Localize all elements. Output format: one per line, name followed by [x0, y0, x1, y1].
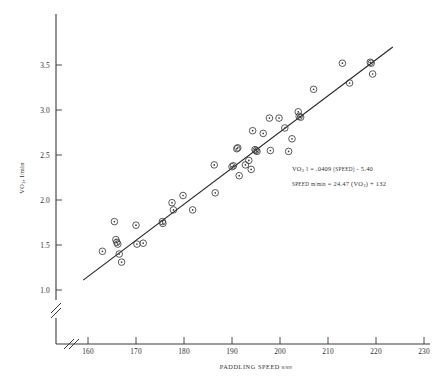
x-axis-title-unit: m/min [281, 365, 292, 370]
data-point [276, 115, 283, 122]
data-point [116, 251, 123, 258]
data-point-center [114, 221, 116, 223]
data-point-center [192, 209, 194, 211]
data-point [111, 218, 118, 225]
x-axis-title-text: PADDLING SPEED [220, 363, 280, 370]
data-point-center [117, 243, 119, 245]
data-point-center [370, 62, 372, 64]
data-point [285, 148, 292, 155]
data-point-center [342, 62, 344, 64]
data-point-center [142, 242, 144, 244]
y-axis-title-text: VO [18, 183, 25, 193]
data-point [282, 125, 289, 132]
data-point [180, 192, 187, 199]
data-point [140, 240, 147, 247]
data-point-center [250, 169, 252, 171]
data-point-center [269, 117, 271, 119]
data-point-center [270, 150, 272, 152]
figure-container: 160170180190200210220230 1.01.52.02.53.0… [0, 0, 437, 386]
x-axis-tick-label: 230 [418, 347, 430, 356]
data-point [248, 166, 255, 173]
data-point [133, 222, 140, 229]
data-point [249, 127, 256, 134]
data-point-center [162, 221, 164, 223]
data-point-center [300, 116, 302, 118]
y-axis-tick-label: 3.0 [28, 106, 50, 115]
data-point-markers [99, 59, 376, 265]
data-point-center [182, 195, 184, 197]
y-axis-tick-label: 3.5 [28, 61, 50, 70]
regression-equations: VO2 l = .0409 (SPEED) - 5.40 SPEED m/min… [292, 166, 432, 196]
data-point-center [256, 151, 258, 153]
equation-fragment: VO [292, 165, 302, 172]
data-point-center [278, 117, 280, 119]
data-point [134, 241, 141, 248]
data-point-center [252, 130, 254, 132]
figure-caption [34, 378, 430, 386]
data-point-center [173, 209, 175, 211]
data-point [246, 157, 253, 164]
data-point [211, 162, 218, 169]
y-axis-break-mark [51, 308, 61, 318]
data-point-center [136, 243, 138, 245]
y-axis-ticks [56, 65, 62, 290]
data-point [369, 71, 376, 78]
data-point-center [171, 202, 173, 204]
x-axis-tick-label: 180 [178, 347, 190, 356]
speed-equation: SPEED m/min = 24.47 (VO2) + 132 [292, 181, 432, 189]
data-point-center [248, 160, 250, 162]
data-point [339, 60, 346, 67]
data-point-center [118, 253, 120, 255]
data-point [289, 136, 296, 143]
data-point-center [245, 164, 247, 166]
data-point-center [313, 88, 315, 90]
data-point [118, 259, 125, 266]
y-axis-break-mark [51, 303, 61, 313]
equation-fragment: - 5.40 [355, 165, 373, 172]
x-axis-tick-label: 200 [274, 347, 286, 356]
y-axis-tick-label: 1.0 [28, 286, 50, 295]
data-point [169, 199, 176, 206]
equation-fragment: SPEED [292, 181, 309, 187]
x-axis-tick-label: 220 [370, 347, 382, 356]
x-axis-tick-label: 190 [226, 347, 238, 356]
data-point-center [162, 223, 164, 225]
y-axis-title-unit: , l/min [18, 162, 25, 181]
data-point [212, 190, 219, 197]
data-point-center [262, 133, 264, 135]
data-point-center [288, 151, 290, 153]
data-point-center [237, 147, 239, 149]
data-point [242, 162, 249, 169]
data-point [346, 80, 353, 87]
vo2-equation: VO2 l = .0409 (SPEED) - 5.40 [292, 166, 432, 174]
x-axis-title: PADDLING SPEEDm/min [220, 363, 292, 370]
equation-fragment: m/min [309, 181, 326, 187]
data-point-center [284, 127, 286, 129]
data-point-center [121, 261, 123, 263]
data-point [267, 147, 274, 154]
y-axis-tick-label: 2.5 [28, 151, 50, 160]
x-axis-tick-label: 170 [130, 347, 142, 356]
y-axis-title: VO2, l/min [18, 162, 26, 193]
y-axis-tick-label: 2.0 [28, 196, 50, 205]
x-axis-ticks [88, 337, 424, 344]
data-point-center [291, 138, 293, 140]
data-point-center [213, 164, 215, 166]
data-point-center [372, 73, 374, 75]
equation-fragment: (SPEED) [333, 166, 354, 172]
data-point-center [102, 250, 104, 252]
data-point [260, 130, 267, 137]
equation-fragment: ) + 132 [366, 180, 386, 187]
data-point [189, 207, 196, 214]
equation-fragment: l = .0409 [304, 165, 333, 172]
data-point-center [238, 175, 240, 177]
data-point [310, 86, 317, 93]
data-point-center [349, 82, 351, 84]
data-point-center [297, 111, 299, 113]
data-point-center [135, 224, 137, 226]
data-point-center [214, 192, 216, 194]
data-point-center [233, 165, 235, 167]
x-axis-tick-label: 210 [322, 347, 334, 356]
data-point-center [298, 115, 300, 117]
data-point-center [231, 166, 233, 168]
